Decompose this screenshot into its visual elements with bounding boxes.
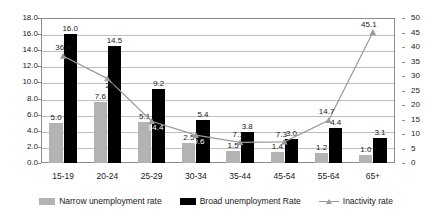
bar-group: 1.53.8: [218, 18, 262, 163]
bar-narrow-45-54[interactable]: [271, 152, 284, 163]
bar-value-broad: 4.4: [327, 118, 344, 127]
bar-broad-65-[interactable]: [373, 138, 386, 163]
right-axis-tick-label: 10: [411, 129, 420, 138]
right-axis-tick-label: 40: [411, 42, 420, 51]
bar-value-broad: 14.5: [106, 36, 123, 45]
category-label-35-44: 35-44: [218, 170, 262, 184]
bar-narrow-25-29[interactable]: [138, 122, 151, 163]
legend-item-inactivity-rate[interactable]: Inactivity rate: [319, 196, 393, 206]
category-label-65-: 65+: [351, 170, 395, 184]
legend-item-broad-unemployment-rate[interactable]: Broad unemployment Rate: [180, 196, 301, 206]
left-axis-tick-label: 4.0: [27, 126, 38, 135]
legend-swatch-broad-icon: [180, 198, 196, 205]
right-axis-tick-label: 50: [411, 13, 420, 22]
left-axis-tick-label: 12.0: [22, 61, 38, 70]
bar-value-narrow: 5.1: [136, 112, 153, 121]
bar-broad-45-54[interactable]: [285, 139, 298, 163]
bar-narrow-15-19[interactable]: [49, 123, 62, 163]
bar-group: 2.55.4: [174, 18, 218, 163]
right-axis-tick: [402, 149, 405, 150]
bar-value-broad: 5.4: [194, 110, 211, 119]
right-axis-tick-label: 30: [411, 71, 420, 80]
bar-group: 1.03.1: [351, 18, 395, 163]
right-axis-tick: [402, 47, 405, 48]
bar-broad-55-64[interactable]: [329, 128, 342, 163]
category-label-15-19: 15-19: [41, 170, 85, 184]
category-label-45-54: 45-54: [262, 170, 306, 184]
left-axis-tick-label: 0.0: [27, 158, 38, 167]
bar-value-broad: 3.0: [283, 129, 300, 138]
category-label-25-29: 25-29: [130, 170, 174, 184]
bar-broad-25-29[interactable]: [152, 89, 165, 163]
legend-swatch-narrow-icon: [39, 198, 55, 205]
right-axis-tick: [402, 134, 405, 135]
right-axis-tick-label: 0: [411, 158, 415, 167]
bar-broad-15-19[interactable]: [64, 34, 77, 163]
bar-group: 7.614.5: [85, 18, 129, 163]
right-value-axis: 05101520253035404550: [402, 0, 432, 218]
bar-value-broad: 3.8: [239, 122, 256, 131]
right-axis-tick: [402, 163, 405, 164]
right-axis-tick-label: 25: [411, 86, 420, 95]
bar-broad-30-34[interactable]: [196, 120, 209, 164]
right-axis-tick-label: 45: [411, 28, 420, 37]
bar-broad-20-24[interactable]: [108, 46, 121, 163]
bar-value-broad: 3.1: [371, 128, 388, 137]
bar-group: 5.016.0: [41, 18, 85, 163]
legend-label-broad: Broad unemployment Rate: [200, 196, 301, 206]
bar-group: 1.24.4: [307, 18, 351, 163]
right-axis-tick-label: 35: [411, 57, 420, 66]
legend-item-narrow-unemployment-rate[interactable]: Narrow unemployment rate: [39, 196, 162, 206]
category-axis: 15-1920-2425-2930-3435-4445-5455-6465+: [41, 170, 395, 184]
bar-value-narrow: 1.4: [269, 142, 286, 151]
bar-narrow-20-24[interactable]: [94, 102, 107, 163]
right-axis-tick: [402, 91, 405, 92]
category-label-55-64: 55-64: [307, 170, 351, 184]
bar-value-narrow: 1.0: [357, 145, 374, 154]
right-axis-tick: [402, 76, 405, 77]
right-axis-tick: [402, 62, 405, 63]
right-axis-tick: [402, 33, 405, 34]
left-axis-tick-label: 10.0: [22, 77, 38, 86]
bar-narrow-30-34[interactable]: [182, 143, 195, 163]
right-axis-tick-label: 5: [411, 144, 415, 153]
right-axis-tick-label: 15: [411, 115, 420, 124]
bar-group: 5.19.2: [130, 18, 174, 163]
bar-narrow-65-[interactable]: [359, 155, 372, 163]
legend-swatch-line-triangle-icon: [319, 198, 339, 205]
bar-value-narrow: 1.5: [224, 141, 241, 150]
left-axis-tick-label: 16.0: [22, 29, 38, 38]
bar-value-narrow: 2.5: [180, 133, 197, 142]
bar-narrow-35-44[interactable]: [226, 151, 239, 163]
bar-value-broad: 9.2: [150, 79, 167, 88]
left-axis-tick-label: 18.0: [22, 13, 38, 22]
left-value-axis: 0.02.04.06.08.010.012.014.016.018.0: [0, 0, 38, 218]
right-axis-tick: [402, 105, 405, 106]
right-axis-tick: [402, 120, 405, 121]
bar-group: 1.43.0: [262, 18, 306, 163]
bar-value-narrow: 1.2: [313, 143, 330, 152]
left-axis-tick-label: 2.0: [27, 142, 38, 151]
category-label-20-24: 20-24: [85, 170, 129, 184]
combo-chart: 0.02.04.06.08.010.012.014.016.018.0 0510…: [0, 0, 432, 218]
bar-broad-35-44[interactable]: [241, 132, 254, 163]
bar-value-narrow: 7.6: [92, 92, 109, 101]
legend-label-inactivity: Inactivity rate: [343, 196, 393, 206]
legend-label-narrow: Narrow unemployment rate: [59, 196, 162, 206]
right-axis-tick-label: 20: [411, 100, 420, 109]
left-axis-tick-label: 8.0: [27, 94, 38, 103]
bar-value-narrow: 5.0: [47, 113, 64, 122]
left-axis-tick: [38, 163, 41, 164]
left-axis-tick-label: 6.0: [27, 110, 38, 119]
bar-narrow-55-64[interactable]: [315, 153, 328, 163]
chart-legend: Narrow unemployment rate Broad unemploym…: [0, 193, 432, 209]
bar-value-broad: 16.0: [62, 24, 79, 33]
bars-layer: 5.016.07.614.55.19.22.55.41.53.81.43.01.…: [41, 18, 395, 163]
category-label-30-34: 30-34: [174, 170, 218, 184]
right-axis-tick: [402, 18, 405, 19]
left-axis-tick-label: 14.0: [22, 45, 38, 54]
